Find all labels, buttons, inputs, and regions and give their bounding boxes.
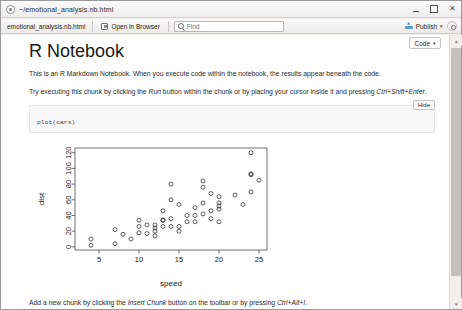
insert-chunk-part-a: Add a new chunk by clicking the	[29, 299, 128, 306]
svg-text:20: 20	[215, 255, 223, 264]
scrollbar-thumb[interactable]	[451, 48, 461, 276]
maximize-button[interactable]	[425, 2, 443, 17]
close-button[interactable]: ✕	[443, 2, 461, 17]
svg-text:10: 10	[135, 255, 143, 264]
vertical-scrollbar[interactable]: ▴ ▾	[449, 35, 461, 309]
publish-label: Publish	[416, 23, 437, 30]
run-instruction-part-a: Try executing this chunk by clicking the	[29, 88, 149, 95]
insert-chunk-part-e: .	[305, 299, 307, 306]
window-controls: ✕	[407, 2, 461, 17]
globe-icon	[6, 5, 15, 14]
find-box[interactable]	[174, 21, 284, 32]
svg-text:40: 40	[65, 211, 74, 219]
svg-text:60: 60	[65, 195, 74, 203]
cars-scatter-plot: 020406080100120510152025speeddist	[35, 142, 275, 290]
svg-text:25: 25	[255, 255, 263, 264]
code-chunk[interactable]: plot(cars)	[29, 105, 435, 133]
close-icon: ✕	[449, 5, 456, 13]
hide-button[interactable]: Hide	[413, 100, 435, 110]
minimize-button[interactable]	[407, 2, 425, 17]
svg-text:80: 80	[65, 180, 74, 188]
window-titlebar: ~/emotional_analysis.nb.html ✕	[1, 1, 461, 18]
svg-text:dist: dist	[37, 192, 46, 205]
toolbar-separator	[168, 21, 169, 32]
open-in-browser-button[interactable]: Open in Browser	[98, 22, 162, 31]
plot-output: 020406080100120510152025speeddist	[35, 142, 435, 290]
run-instruction-paragraph: Try executing this chunk by clicking the…	[29, 87, 435, 97]
search-icon	[178, 23, 184, 29]
intro-paragraph: This is an R Markdown Notebook. When you…	[29, 69, 435, 79]
code-chunk-text: plot(cars)	[37, 119, 75, 126]
svg-text:0: 0	[65, 244, 74, 248]
insert-chunk-shortcut-emphasis: Ctrl+Alt+I	[277, 299, 305, 306]
file-name-label: emotional_analysis.nb.html	[5, 23, 87, 30]
toolbar-right-group: Publish ▾	[405, 21, 457, 31]
insert-chunk-emphasis: Insert Chunk	[128, 299, 167, 306]
scroll-down-button[interactable]: ▾	[450, 298, 462, 309]
run-instruction-part-e: .	[425, 88, 427, 95]
maximize-icon	[430, 5, 438, 13]
svg-text:100: 100	[65, 162, 74, 175]
run-instruction-part-c: button within the chunk or by placing yo…	[161, 88, 376, 95]
publish-icon	[405, 22, 413, 30]
page-title: R Notebook	[29, 42, 435, 60]
svg-text:5: 5	[97, 255, 101, 264]
scroll-up-button[interactable]: ▴	[450, 35, 462, 46]
preview-toolbar: emotional_analysis.nb.html Open in Brows…	[1, 19, 461, 34]
open-in-browser-label: Open in Browser	[111, 23, 159, 30]
rstudio-notebook-preview-window: ~/emotional_analysis.nb.html ✕ emotional…	[0, 0, 462, 310]
minimize-icon	[413, 7, 419, 12]
toolbar-separator	[92, 21, 93, 32]
chevron-down-icon: ▾	[440, 23, 443, 29]
publish-button[interactable]: Publish ▾	[405, 22, 443, 30]
insert-chunk-paragraph: Add a new chunk by clicking the Insert C…	[29, 298, 435, 308]
run-button-emphasis: Run	[149, 88, 161, 95]
find-input[interactable]	[187, 23, 280, 30]
code-dropdown-label: Code	[414, 40, 430, 47]
svg-text:speed: speed	[160, 279, 182, 288]
code-dropdown-button[interactable]: Code ▾	[409, 37, 441, 49]
svg-text:120: 120	[65, 146, 74, 159]
svg-text:20: 20	[65, 227, 74, 235]
run-shortcut-emphasis: Ctrl+Shift+Enter	[376, 88, 424, 95]
code-chunk-wrapper: Hide plot(cars)	[29, 105, 435, 133]
gear-icon[interactable]	[447, 21, 457, 31]
window-title: ~/emotional_analysis.nb.html	[19, 6, 113, 13]
browser-icon	[101, 23, 108, 30]
chevron-down-icon: ▾	[433, 40, 436, 46]
notebook-page: Code ▾ R Notebook This is an R Markdown …	[1, 35, 449, 309]
notebook-content: Code ▾ R Notebook This is an R Markdown …	[1, 35, 449, 309]
insert-chunk-part-c: button on the toolbar or by pressing	[166, 299, 277, 306]
svg-text:15: 15	[175, 255, 183, 264]
